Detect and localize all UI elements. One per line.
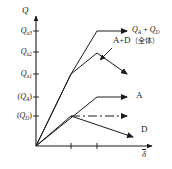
y-tick-label-qu1: Qu1 [6, 70, 32, 78]
series-curve-d [36, 116, 133, 146]
y-tick-label-qa: (QA) [2, 93, 32, 101]
y-axis-label: Q [22, 6, 29, 15]
y-tick-label-qu2: Qu2 [6, 48, 32, 56]
annotation-whole-curve: A+D（全体） [113, 36, 159, 45]
annotation-curve-d: D [141, 125, 148, 134]
y-tick-label-qu3: Qu3 [6, 27, 32, 35]
x-axis-label: δ [142, 150, 146, 159]
series-whole-curve [36, 53, 127, 146]
annotation-sum-curve: QA + QD [132, 26, 159, 34]
series-curve-a [36, 97, 127, 146]
series-sum-curve [36, 31, 127, 146]
y-tick-label-qd: (QD) [2, 112, 32, 120]
q-delta-figure: Q δ Qu3 Qu2 Qu1 (QA) (QD) QA + QD A+D（全体… [0, 0, 172, 169]
x-axis-label-text: δ [142, 150, 146, 159]
whole-curve-leader [100, 48, 112, 60]
annotation-curve-a: A [136, 91, 143, 100]
